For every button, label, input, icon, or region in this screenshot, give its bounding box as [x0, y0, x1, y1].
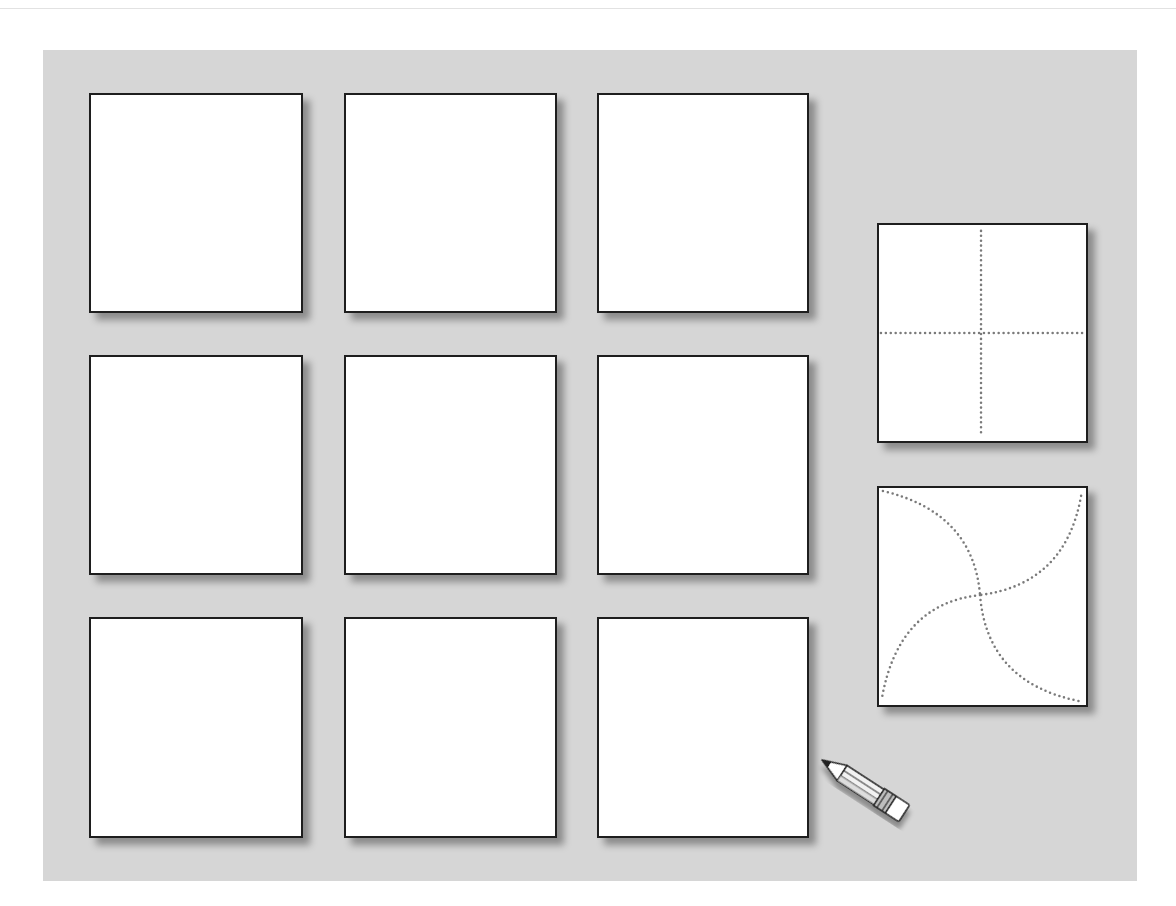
header-rule — [0, 8, 1176, 9]
drawing-box-r2c1[interactable] — [89, 355, 303, 575]
drawing-box-r3c3[interactable] — [597, 617, 809, 838]
fold-guide-pinwheel — [877, 486, 1088, 707]
drawing-box-r3c2[interactable] — [344, 617, 557, 838]
drawing-box-r1c2[interactable] — [344, 93, 557, 313]
drawing-box-r1c1[interactable] — [89, 93, 303, 313]
drawing-box-r2c2[interactable] — [344, 355, 557, 575]
header-text-cropped — [0, 0, 1176, 6]
dotted-pinwheel-arcs — [879, 488, 1086, 705]
pencil-icon — [818, 750, 928, 840]
dotted-cross-lines — [879, 225, 1086, 441]
drawing-box-r2c3[interactable] — [597, 355, 809, 575]
drawing-box-r1c3[interactable] — [597, 93, 809, 313]
drawing-box-r3c1[interactable] — [89, 617, 303, 838]
fold-guide-cross — [877, 223, 1088, 443]
